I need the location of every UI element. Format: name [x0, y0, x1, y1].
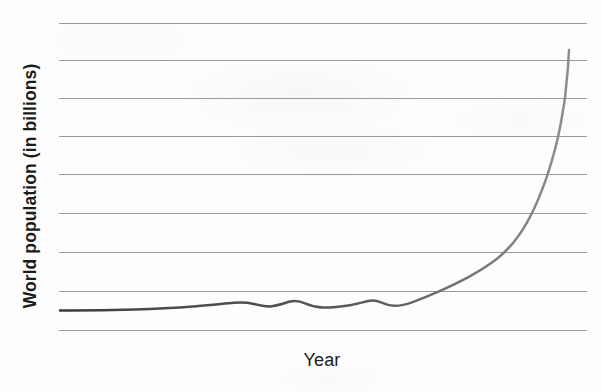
- gridlines: [59, 24, 587, 331]
- data-series-line: [60, 50, 569, 311]
- chart-figure: World population (in billions) Year: [0, 0, 602, 392]
- y-axis-label: World population (in billions): [20, 64, 41, 309]
- line-chart-plot: [0, 0, 602, 392]
- x-axis-label: Year: [304, 350, 341, 371]
